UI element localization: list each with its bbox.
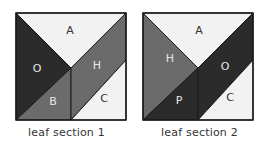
label-c: C	[100, 92, 108, 105]
caption-leaf-section-1: leaf section 1	[0, 126, 133, 139]
label-h: H	[166, 52, 174, 65]
label-p: P	[176, 94, 183, 107]
label-o: O	[33, 62, 42, 75]
leaf-section-1: A O H B C leaf section 1	[0, 0, 133, 145]
leaf-section-1-diagram: A O H B C	[0, 0, 133, 125]
leaf-section-2-diagram: A H O P C	[133, 0, 266, 125]
label-o: O	[221, 60, 230, 73]
label-a: A	[66, 24, 74, 37]
label-b: B	[49, 95, 57, 108]
label-c: C	[226, 91, 234, 104]
label-a: A	[195, 24, 203, 37]
caption-leaf-section-2: leaf section 2	[133, 126, 266, 139]
leaf-section-2: A H O P C leaf section 2	[133, 0, 266, 145]
label-h: H	[93, 59, 101, 72]
